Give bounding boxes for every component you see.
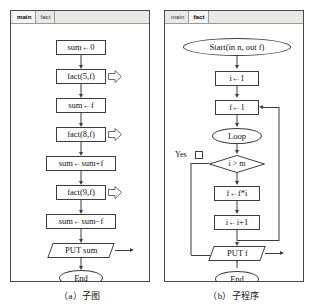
connector-6b (237, 201, 238, 210)
output-arrow-a (130, 248, 134, 252)
connector-3a (81, 113, 82, 123)
yes-branch-top-b (191, 163, 209, 164)
connector-1a (81, 55, 82, 65)
node-label: i←1 (229, 74, 244, 83)
node-put-f[interactable]: PUT f (208, 246, 265, 261)
connector-3b (237, 115, 238, 123)
node-loop[interactable]: Loop (212, 128, 262, 144)
node-label: End (74, 274, 88, 281)
node-label: sum←sum−f (59, 217, 103, 226)
connector-7a (81, 229, 82, 239)
node-sum-add-f[interactable]: sum←sum+f (46, 156, 116, 171)
node-label: sum←f (68, 101, 94, 110)
loopback-top-b (263, 107, 279, 108)
arrowhead-3b (235, 123, 239, 127)
node-f-mul-i[interactable]: f←f*i (214, 186, 260, 201)
node-label: sum←0 (68, 43, 95, 52)
node-call-fact-5[interactable]: fact(5,f) (56, 69, 106, 84)
node-label: PUT sum (65, 246, 97, 255)
node-i-assign-1[interactable]: i←1 (215, 71, 259, 86)
node-label: i←i+1 (226, 218, 248, 227)
branch-label-yes: Yes (175, 150, 187, 159)
output-arrow-b (280, 251, 284, 255)
node-call-fact-9[interactable]: fact(9,f) (56, 185, 106, 200)
connector-6a (81, 200, 82, 210)
tab-main-b[interactable]: main (167, 11, 189, 23)
tabstrip-filler-b (209, 11, 303, 23)
figure-panel-a: main fact (10, 10, 150, 302)
window-panel-a: main fact (10, 10, 150, 282)
connector-8a (81, 258, 82, 266)
tab-fact-a[interactable]: fact (36, 11, 55, 23)
connector-4a (81, 142, 82, 152)
node-label: Start(in n, out f) (210, 43, 265, 52)
tabstrip-b: main fact (165, 11, 303, 24)
node-end-b[interactable]: End (215, 271, 259, 281)
node-label: fact(9,f) (67, 188, 95, 197)
caption-a: （a）子图 (10, 289, 150, 302)
connector-2b (237, 86, 238, 94)
node-f-assign-1[interactable]: f←1 (215, 100, 259, 115)
node-sum-sub-f[interactable]: sum←sum−f (46, 214, 116, 229)
connector-1b (237, 56, 238, 65)
node-label: PUT f (227, 249, 248, 258)
loopback-right-b (279, 107, 280, 241)
loopback-arrow-b (259, 105, 263, 109)
node-label: End (230, 275, 244, 281)
connector-7b (237, 261, 238, 268)
loopback-bottom-b (237, 240, 279, 241)
figure-panel-b: main fact (164, 10, 304, 302)
node-call-fact-8[interactable]: fact(8,f) (56, 127, 106, 142)
connector-5b (237, 173, 238, 181)
arrowhead-5b (235, 181, 239, 185)
arrowhead-4b (235, 150, 239, 154)
node-label: f←1 (229, 103, 245, 112)
connector-5a (81, 171, 82, 181)
flowchart-canvas-a: sum←0 fact(5,f) sum←f fact(8,f) (11, 24, 149, 281)
call-arrow-icon (108, 70, 122, 83)
tab-main-a[interactable]: main (13, 11, 36, 23)
connector-2a (81, 84, 82, 94)
flowchart-canvas-b: Yes Start(in n, out f) i←1 f←1 (165, 24, 303, 281)
tabstrip-a: main fact (11, 11, 149, 24)
node-sum-assign-0[interactable]: sum←0 (56, 40, 106, 55)
node-sum-assign-f[interactable]: sum←f (56, 98, 106, 113)
node-label: Loop (228, 132, 246, 141)
node-condition[interactable]: i > m (209, 155, 265, 173)
node-i-inc[interactable]: i←i+1 (214, 215, 260, 230)
arrowhead-6b (235, 210, 239, 214)
node-label: i > m (229, 160, 246, 168)
output-line-b (265, 253, 281, 254)
yes-branch-down-b (191, 163, 192, 255)
node-label: fact(5,f) (67, 72, 95, 81)
arrowhead-1b (235, 65, 239, 69)
arrowhead-2b (235, 94, 239, 98)
node-start[interactable]: Start(in n, out f) (183, 38, 291, 56)
tab-fact-b[interactable]: fact (189, 11, 209, 23)
window-panel-b: main fact (164, 10, 304, 282)
figure-container: main fact (0, 0, 312, 306)
tabstrip-filler-a (55, 11, 149, 23)
yes-connector-square (195, 151, 203, 159)
node-end-a[interactable]: End (59, 270, 103, 281)
node-label: sum←sum+f (59, 159, 103, 168)
call-arrow-icon (108, 186, 122, 199)
node-label: fact(8,f) (67, 130, 95, 139)
call-arrow-icon (108, 128, 122, 141)
node-label: f←f*i (227, 189, 248, 198)
caption-b: （b）子程序 (164, 289, 304, 302)
output-line-a (115, 250, 131, 251)
node-put-sum[interactable]: PUT sum (47, 243, 114, 258)
